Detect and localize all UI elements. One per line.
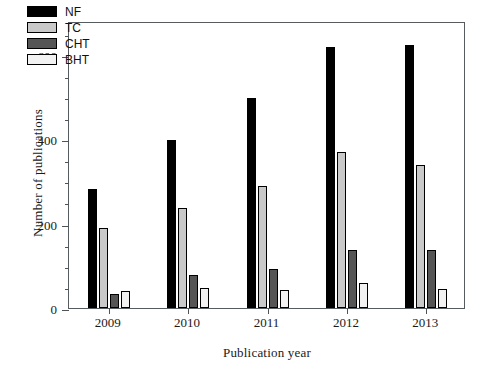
- y-axis-tick: 200: [62, 226, 69, 227]
- legend-swatch-icon: [27, 6, 57, 17]
- bar-nf-2012: [326, 47, 335, 308]
- bar-tc-2011: [258, 186, 267, 308]
- plot-area: 0200400600: [68, 22, 465, 309]
- x-axis-tick: [268, 308, 269, 314]
- x-axis-tick-label: 2010: [174, 315, 200, 331]
- legend-item-tc: TC: [27, 21, 90, 34]
- y-axis-minor-tick: [65, 247, 69, 248]
- chart-legend: NFTCCHTBHT: [27, 5, 90, 66]
- bar-nf-2013: [405, 45, 414, 308]
- legend-item-cht: CHT: [27, 37, 90, 50]
- bar-bht-2013: [438, 289, 447, 308]
- bar-bht-2009: [121, 291, 130, 308]
- x-axis-tick: [426, 308, 427, 314]
- bar-tc-2010: [178, 208, 187, 308]
- bar-nf-2010: [167, 140, 176, 308]
- y-axis-minor-tick: [65, 120, 69, 121]
- bar-bht-2011: [280, 290, 289, 308]
- y-axis-minor-tick: [65, 78, 69, 79]
- bar-nf-2011: [247, 98, 256, 308]
- legend-swatch-icon: [27, 54, 57, 65]
- y-axis-tick-label: 200: [38, 218, 58, 234]
- y-axis-minor-tick: [65, 289, 69, 290]
- bar-cht-2013: [427, 250, 436, 308]
- x-axis-tick: [188, 308, 189, 314]
- y-axis-minor-tick: [65, 99, 69, 100]
- x-axis-tick-label: 2009: [95, 315, 121, 331]
- y-axis-minor-tick: [65, 162, 69, 163]
- x-axis-tick-label: 2013: [412, 315, 438, 331]
- legend-swatch-icon: [27, 38, 57, 49]
- bar-cht-2010: [189, 275, 198, 308]
- legend-label: BHT: [65, 54, 89, 66]
- bar-chart: Number of publications 0200400600 200920…: [0, 0, 488, 378]
- y-axis-minor-tick: [65, 268, 69, 269]
- y-axis-tick-label: 0: [51, 302, 58, 318]
- legend-item-bht: BHT: [27, 53, 90, 66]
- legend-label: NF: [65, 6, 81, 18]
- bar-bht-2010: [200, 288, 209, 308]
- legend-label: CHT: [65, 38, 90, 50]
- y-axis-title: Number of publications: [30, 73, 46, 273]
- legend-label: TC: [65, 22, 81, 34]
- y-axis-minor-tick: [65, 183, 69, 184]
- bar-tc-2009: [99, 228, 108, 308]
- bar-cht-2012: [348, 250, 357, 308]
- bar-cht-2011: [269, 269, 278, 308]
- x-axis-tick-label: 2012: [333, 315, 359, 331]
- y-axis-tick-label: 400: [38, 133, 58, 149]
- bar-nf-2009: [88, 189, 97, 308]
- legend-item-nf: NF: [27, 5, 90, 18]
- bar-cht-2009: [110, 294, 119, 308]
- y-axis-tick: 400: [62, 141, 69, 142]
- bar-bht-2012: [359, 283, 368, 308]
- y-axis-tick: 0: [62, 310, 69, 311]
- bar-tc-2013: [416, 165, 425, 309]
- legend-swatch-icon: [27, 22, 57, 33]
- y-axis-minor-tick: [65, 204, 69, 205]
- x-axis-tick: [109, 308, 110, 314]
- x-axis-tick: [347, 308, 348, 314]
- x-axis-tick-label: 2011: [254, 315, 280, 331]
- x-axis-title: Publication year: [68, 345, 466, 361]
- bar-tc-2012: [337, 152, 346, 308]
